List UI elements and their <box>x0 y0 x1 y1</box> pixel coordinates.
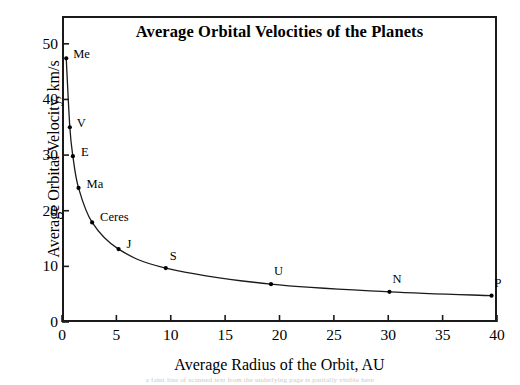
x-tick-label: 0 <box>47 327 77 343</box>
x-tick-label: 20 <box>265 327 295 343</box>
point-label-p: P <box>495 277 502 290</box>
chart-page: Average Orbital Velocities of the Planet… <box>0 0 520 385</box>
y-tick-label: 30 <box>28 147 58 163</box>
x-tick-label: 25 <box>319 327 349 343</box>
point-label-j: J <box>127 238 132 251</box>
x-tick-label: 35 <box>428 327 458 343</box>
x-tick-label: 10 <box>156 327 186 343</box>
point-label-ma: Ma <box>87 178 104 191</box>
y-tick-label: 50 <box>28 36 58 52</box>
point-label-ceres: Ceres <box>100 211 128 224</box>
scan-artifact-text: a faint line of scanned text from the un… <box>0 376 520 383</box>
point-label-v: V <box>77 117 86 130</box>
x-tick-label: 40 <box>482 327 512 343</box>
x-axis-title: Average Radius of the Orbit, AU <box>62 356 497 374</box>
x-tick-label: 15 <box>210 327 240 343</box>
y-tick-label: 20 <box>28 203 58 219</box>
x-tick-label: 5 <box>101 327 131 343</box>
y-tick-label: 10 <box>28 258 58 274</box>
x-tick-label: 30 <box>373 327 403 343</box>
point-label-me: Me <box>73 48 90 61</box>
point-label-n: N <box>392 273 401 286</box>
chart-title: Average Orbital Velocities of the Planet… <box>62 22 497 42</box>
x-axis-tick-labels: 0510152025303540 <box>0 327 520 347</box>
point-label-u: U <box>274 265 283 278</box>
point-label-s: S <box>170 250 177 263</box>
y-tick-label: 40 <box>28 91 58 107</box>
point-label-e: E <box>81 146 89 159</box>
